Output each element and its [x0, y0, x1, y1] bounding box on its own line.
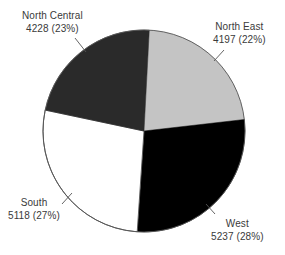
pie-label-north-east-name: North East [213, 21, 266, 34]
pie-label-north-central-value: 4228 (23%) [22, 23, 83, 36]
leader-line-north-central [75, 38, 86, 52]
pie-label-north-central: North Central 4228 (23%) [22, 10, 83, 35]
pie-label-west-name: West [211, 218, 264, 231]
pie-label-west-value: 5237 (28%) [211, 231, 264, 244]
pie-label-north-east: North East 4197 (22%) [213, 21, 266, 46]
pie-slice-west[interactable] [137, 119, 245, 232]
pie-label-west: West 5237 (28%) [211, 218, 264, 243]
pie-label-south: South 5118 (27%) [8, 197, 60, 222]
pie-label-south-value: 5118 (27%) [8, 210, 60, 223]
pie-label-north-central-name: North Central [22, 10, 83, 23]
pie-label-south-name: South [8, 197, 60, 210]
pie-chart: North Central 4228 (23%) North East 4197… [0, 0, 285, 255]
leader-line-north-east [214, 50, 224, 61]
pie-label-north-east-value: 4197 (22%) [213, 34, 266, 47]
